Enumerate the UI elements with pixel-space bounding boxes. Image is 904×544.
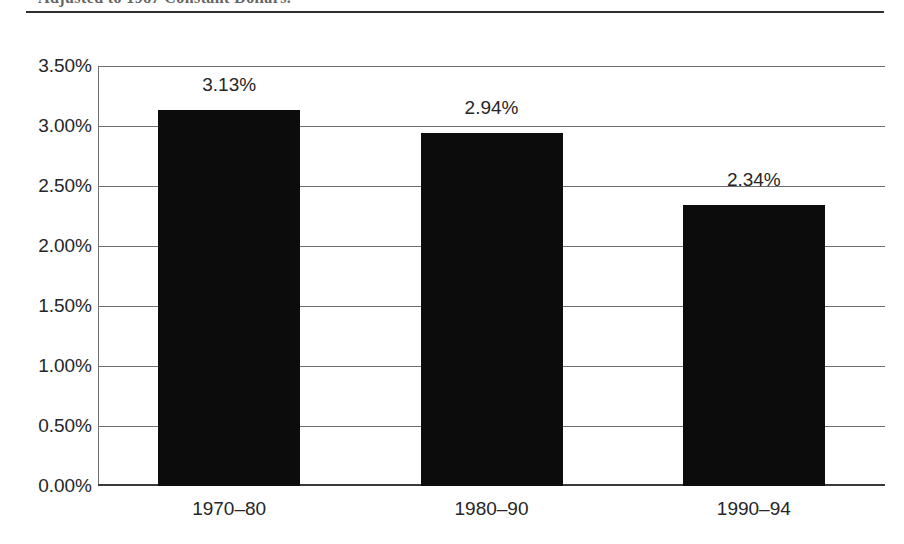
y-axis-tick-label: 0.00%: [6, 475, 92, 497]
y-axis-tick-label: 0.50%: [6, 415, 92, 437]
y-axis-tick-label: 2.50%: [6, 175, 92, 197]
header-divider: [26, 11, 884, 13]
x-axis-tick-label: 1980–90: [455, 498, 529, 520]
y-axis-tick-label: 2.00%: [6, 235, 92, 257]
y-axis-tick-label: 3.50%: [6, 55, 92, 77]
plot-area: [98, 66, 885, 486]
figure-caption: Adjusted to 1987 Constant Dollars.: [38, 0, 291, 7]
bar-value-label: 3.13%: [202, 74, 256, 96]
caption-clip: Adjusted to 1987 Constant Dollars.: [0, 0, 904, 9]
x-axis-tick-label: 1990–94: [717, 498, 791, 520]
bar-1980–90: [421, 133, 563, 486]
bar-chart: 0.00%0.50%1.00%1.50%2.00%2.50%3.00%3.50%…: [0, 20, 904, 544]
y-axis-line: [98, 66, 99, 486]
y-axis-tick-label: 3.00%: [6, 115, 92, 137]
y-axis-tick-labels: 0.00%0.50%1.00%1.50%2.00%2.50%3.00%3.50%: [0, 66, 92, 486]
gridline: [98, 66, 885, 67]
y-axis-tick-label: 1.00%: [6, 355, 92, 377]
y-axis-tick-label: 1.50%: [6, 295, 92, 317]
bar-1990–94: [683, 205, 825, 486]
bar-value-label: 2.34%: [727, 169, 781, 191]
bar-1970–80: [158, 110, 300, 486]
bar-value-label: 2.94%: [465, 97, 519, 119]
x-axis-tick-label: 1970–80: [192, 498, 266, 520]
